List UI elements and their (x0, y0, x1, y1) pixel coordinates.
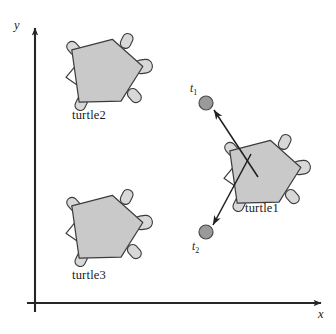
time-label-t1: t1 (190, 82, 197, 97)
turtle1-label: turtle1 (245, 201, 279, 216)
time-markers-group (199, 96, 213, 239)
y-axis-label: y (14, 18, 20, 33)
turtle3-shape[interactable] (61, 185, 158, 270)
time-label-t2: t2 (192, 240, 199, 255)
turtle2-label: turtle2 (72, 108, 106, 123)
turtle3-label: turtle3 (72, 268, 106, 283)
time-label-t2-subscript: 2 (195, 246, 199, 255)
time-label-t1-subscript: 1 (193, 88, 197, 97)
diagram-canvas (0, 0, 336, 334)
turtle2-shape[interactable] (61, 29, 158, 114)
turtle-diagram-figure: y x turtle2 turtle3 turtle1 t1 t2 (0, 0, 336, 334)
marker-t2[interactable] (199, 225, 213, 239)
x-axis-label: x (318, 307, 324, 322)
marker-t1[interactable] (199, 96, 213, 110)
